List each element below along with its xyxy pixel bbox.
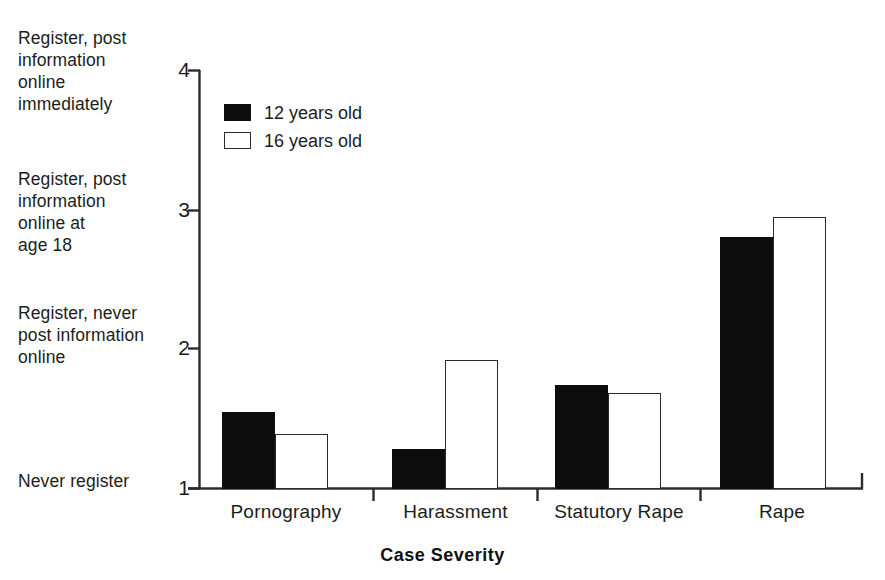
chart-figure: Register, post information online immedi… <box>0 0 885 580</box>
bar-harassment-12-years-old <box>392 449 445 489</box>
bar-statutory-rape-16-years-old <box>608 393 661 489</box>
bar-rape-16-years-old <box>773 217 826 489</box>
x-axis-tick-label-statutory-rape: Statutory Rape <box>538 500 700 524</box>
legend-item-16-years-old: 16 years old <box>224 129 362 152</box>
x-axis-tick-label-harassment: Harassment <box>374 500 537 524</box>
x-axis-title: Case Severity <box>0 545 885 566</box>
x-axis-tick-label-pornography: Pornography <box>200 500 372 524</box>
legend-swatch-filled-square-icon <box>224 104 251 121</box>
bar-pornography-12-years-old <box>222 412 275 490</box>
legend-label-16-years-old: 16 years old <box>264 131 362 151</box>
chart-legend: 12 years old 16 years old <box>224 101 362 157</box>
bar-pornography-16-years-old <box>275 434 328 489</box>
legend-swatch-open-square-icon <box>224 132 251 149</box>
bar-harassment-16-years-old <box>445 360 498 489</box>
legend-label-12-years-old: 12 years old <box>264 103 362 123</box>
bar-statutory-rape-12-years-old <box>555 385 608 489</box>
x-axis-tick-label-rape: Rape <box>701 500 863 524</box>
legend-item-12-years-old: 12 years old <box>224 101 362 124</box>
bar-rape-12-years-old <box>720 237 773 489</box>
